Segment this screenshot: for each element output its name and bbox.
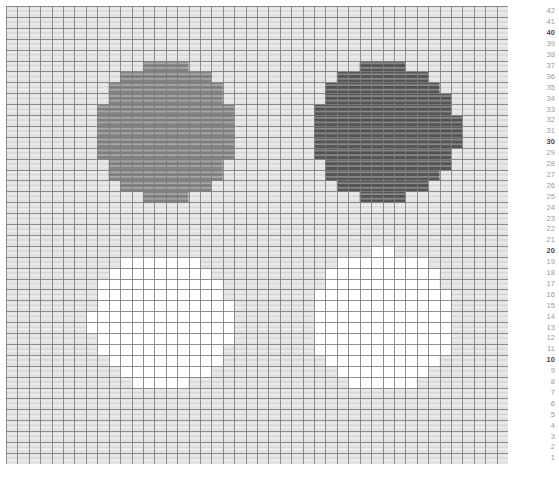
row-label-17: 17 xyxy=(546,279,555,289)
row-label-2: 2 xyxy=(551,442,555,452)
row-label-32: 32 xyxy=(546,115,555,125)
row-label-36: 36 xyxy=(546,72,555,82)
row-label-24: 24 xyxy=(546,203,555,213)
row-label-25: 25 xyxy=(546,192,555,202)
row-label-38: 38 xyxy=(546,50,555,60)
row-label-41: 41 xyxy=(546,17,555,27)
row-label-37: 37 xyxy=(546,61,555,71)
row-label-22: 22 xyxy=(546,224,555,234)
row-label-23: 23 xyxy=(546,214,555,224)
row-label-26: 26 xyxy=(546,181,555,191)
row-label-33: 33 xyxy=(546,105,555,115)
row-label-19: 19 xyxy=(546,257,555,267)
row-label-27: 27 xyxy=(546,170,555,180)
row-label-11: 11 xyxy=(547,344,555,354)
row-label-31: 31 xyxy=(546,126,555,136)
row-label-40: 40 xyxy=(546,28,555,38)
row-label-35: 35 xyxy=(546,83,555,93)
row-label-7: 7 xyxy=(551,388,555,398)
pixel-grid-canvas[interactable] xyxy=(6,6,508,464)
row-label-14: 14 xyxy=(546,312,555,322)
row-label-8: 8 xyxy=(551,377,555,387)
row-label-10: 10 xyxy=(546,355,555,365)
grid-container[interactable] xyxy=(6,6,508,464)
heatmap-view: 4241403938373635343332313029282726252423… xyxy=(0,0,559,477)
row-label-28: 28 xyxy=(546,159,555,169)
row-label-20: 20 xyxy=(546,246,555,256)
row-label-21: 21 xyxy=(546,235,555,245)
row-label-30: 30 xyxy=(546,137,555,147)
row-label-29: 29 xyxy=(546,148,555,158)
row-label-5: 5 xyxy=(551,410,555,420)
row-label-1: 1 xyxy=(551,453,555,463)
row-label-12: 12 xyxy=(546,333,555,343)
row-label-4: 4 xyxy=(551,421,555,431)
row-label-13: 13 xyxy=(546,323,555,333)
row-label-34: 34 xyxy=(546,94,555,104)
row-label-18: 18 xyxy=(546,268,555,278)
row-axis-labels: 4241403938373635343332313029282726252423… xyxy=(533,6,559,464)
row-label-16: 16 xyxy=(546,290,555,300)
row-label-39: 39 xyxy=(546,39,555,49)
row-label-6: 6 xyxy=(551,399,555,409)
row-label-9: 9 xyxy=(551,366,555,376)
row-label-15: 15 xyxy=(546,301,555,311)
row-label-3: 3 xyxy=(551,432,555,442)
row-label-42: 42 xyxy=(546,6,555,16)
